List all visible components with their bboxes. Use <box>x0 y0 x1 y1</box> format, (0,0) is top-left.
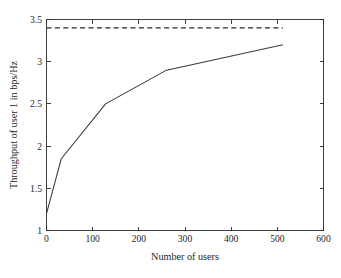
y-tick-label-1.5: 1.5 <box>30 183 42 194</box>
x-tick-label-200: 200 <box>132 233 147 244</box>
y-tick-label-3: 3 <box>37 56 42 67</box>
y-tick-label-1: 1 <box>37 225 42 236</box>
x-tick-label-300: 300 <box>178 233 193 244</box>
y-tick-label-2.5: 2.5 <box>30 98 42 109</box>
y-tick-label-2: 2 <box>37 141 42 152</box>
throughput-line-chart: 0100200300400500600 11.522.533.5 Number … <box>0 0 341 278</box>
x-axis-title: Number of users <box>151 251 219 262</box>
x-tick-label-0: 0 <box>44 233 49 244</box>
y-axis-tick-labels: 11.522.533.5 <box>30 14 42 236</box>
x-tick-label-100: 100 <box>85 233 100 244</box>
series-line-0 <box>47 45 283 214</box>
x-tick-label-500: 500 <box>270 233 285 244</box>
x-tick-label-600: 600 <box>316 233 331 244</box>
y-tick-label-3.5: 3.5 <box>30 14 42 25</box>
data-series-layer <box>47 28 283 214</box>
x-axis-tick-labels: 0100200300400500600 <box>44 233 331 244</box>
x-tick-label-400: 400 <box>224 233 239 244</box>
chart-canvas: 0100200300400500600 11.522.533.5 Number … <box>0 0 341 278</box>
y-axis-title: Throughput of user 1 in bps/Hz <box>8 60 19 189</box>
